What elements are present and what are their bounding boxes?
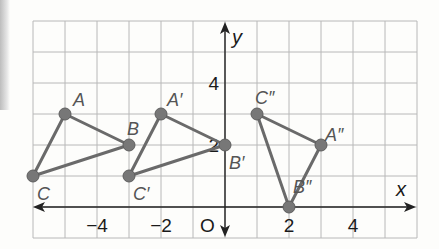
vertex-point <box>219 139 231 151</box>
vertex-label: B″ <box>293 177 312 197</box>
x-tick-label: 4 <box>348 215 359 236</box>
vertex-label: C′ <box>133 184 150 204</box>
triangle-abc: ABC <box>27 90 139 204</box>
vertex-label: A″ <box>324 125 344 145</box>
vertex-point <box>123 139 135 151</box>
vertex-label: B <box>127 119 139 139</box>
vertex-label: C <box>37 184 51 204</box>
vertex-label: B′ <box>229 153 245 173</box>
vertex-label: C″ <box>255 88 275 108</box>
tick-labels: −4−22442 <box>86 73 359 236</box>
x-tick-label: −2 <box>150 215 172 236</box>
triangle-abc: A′B′C′ <box>123 90 245 204</box>
vertex-point <box>27 170 39 182</box>
origin-label: O <box>200 215 215 236</box>
x-axis-label: x <box>395 178 407 200</box>
vertex-label: A′ <box>166 90 183 110</box>
vertex-point <box>251 108 263 120</box>
x-tick-label: −4 <box>86 215 108 236</box>
y-tick-label: 4 <box>208 73 219 94</box>
vertex-point <box>283 201 295 213</box>
y-axis-label: y <box>230 26 243 48</box>
coordinate-plane: x y O −4−22442 ABCA′B′C′A″B″C″ <box>0 0 439 249</box>
axes: x y O <box>33 22 416 237</box>
vertex-point <box>123 170 135 182</box>
triangles: ABCA′B′C′A″B″C″ <box>27 88 344 213</box>
vertex-point <box>59 108 71 120</box>
x-tick-label: 2 <box>284 215 295 236</box>
triangle-abc: A″B″C″ <box>251 88 344 213</box>
vertex-label: A <box>72 90 85 110</box>
vertex-point <box>155 108 167 120</box>
